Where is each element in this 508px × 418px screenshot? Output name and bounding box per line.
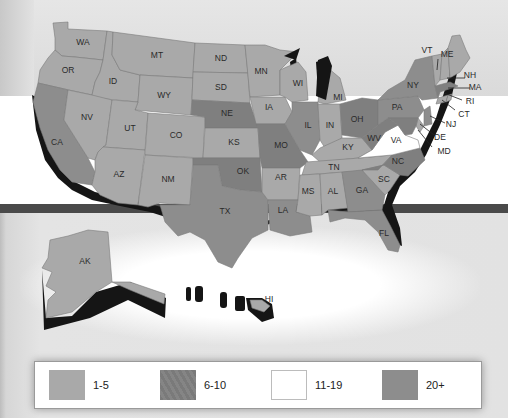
label-CO: CO — [170, 130, 183, 140]
label-MN: MN — [254, 66, 267, 76]
label-DE: DE — [434, 132, 446, 142]
legend-item-20-plus: 20+ — [368, 370, 479, 400]
legend-swatch-20-plus — [382, 370, 418, 400]
label-RI: RI — [466, 96, 475, 106]
label-CA: CA — [51, 137, 63, 147]
legend-swatch-6-10 — [160, 370, 196, 400]
legend-label: 20+ — [426, 379, 445, 391]
label-WV: WV — [367, 133, 381, 143]
legend-swatch-1-5 — [49, 370, 85, 400]
label-IA: IA — [265, 102, 273, 112]
label-SC: SC — [378, 174, 390, 184]
label-SD: SD — [215, 82, 227, 92]
legend-label: 6-10 — [204, 379, 226, 391]
legend: 1-5 6-10 11-19 20+ — [34, 361, 482, 409]
label-CT: CT — [458, 109, 469, 119]
label-MD: MD — [437, 146, 450, 156]
label-OR: OR — [62, 65, 75, 75]
label-TX: TX — [220, 206, 231, 216]
label-PA: PA — [392, 102, 403, 112]
label-AK: AK — [79, 256, 91, 266]
alaska-group — [42, 230, 166, 330]
label-GA: GA — [356, 185, 369, 195]
label-NC: NC — [392, 156, 404, 166]
label-AL: AL — [328, 186, 339, 196]
us-map: WA OR CA ID NV MT WY UT AZ CO NM ND SD N… — [0, 0, 508, 418]
label-TN: TN — [328, 162, 339, 172]
label-KY: KY — [342, 142, 354, 152]
label-MT: MT — [151, 50, 163, 60]
label-UT: UT — [124, 123, 135, 133]
label-NV: NV — [81, 112, 93, 122]
legend-swatch-11-19 — [271, 370, 307, 400]
label-OK: OK — [237, 166, 250, 176]
label-MS: MS — [302, 186, 315, 196]
label-HI: HI — [265, 294, 274, 304]
label-WA: WA — [76, 37, 90, 47]
label-VT: VT — [422, 45, 433, 55]
legend-label: 11-19 — [315, 379, 342, 391]
label-KS: KS — [228, 137, 240, 147]
state-NY[interactable] — [378, 56, 438, 100]
label-VA: VA — [391, 135, 402, 145]
label-ND: ND — [215, 53, 227, 63]
label-NE: NE — [221, 108, 233, 118]
label-OH: OH — [351, 114, 364, 124]
label-NM: NM — [161, 174, 174, 184]
label-NH: NH — [464, 70, 476, 80]
label-IL: IL — [304, 120, 311, 130]
label-AZ: AZ — [114, 169, 125, 179]
label-AR: AR — [275, 172, 287, 182]
legend-item-1-5: 1-5 — [35, 370, 146, 400]
label-MO: MO — [274, 140, 288, 150]
label-ID: ID — [109, 76, 118, 86]
label-MA: MA — [469, 82, 482, 92]
label-IN: IN — [326, 120, 335, 130]
label-WI: WI — [293, 78, 303, 88]
label-LA: LA — [278, 205, 289, 215]
label-ME: ME — [441, 49, 454, 59]
hawaii-group — [186, 286, 274, 322]
legend-label: 1-5 — [93, 379, 109, 391]
label-WY: WY — [157, 90, 171, 100]
label-NJ: NJ — [446, 119, 456, 129]
label-FL: FL — [379, 228, 389, 238]
legend-item-6-10: 6-10 — [146, 370, 257, 400]
legend-item-11-19: 11-19 — [257, 370, 368, 400]
label-MI: MI — [333, 92, 342, 102]
label-NY: NY — [407, 80, 419, 90]
